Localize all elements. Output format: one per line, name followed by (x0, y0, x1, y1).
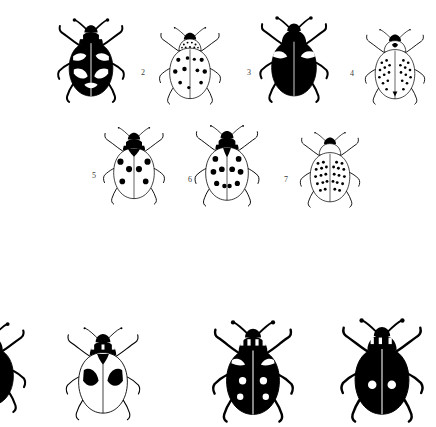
beetle-9 (65, 326, 141, 422)
illustration-plate: 234567 (0, 0, 436, 427)
figure-number-2: 2 (141, 69, 145, 77)
beetle-2 (157, 26, 223, 106)
beetle-8-cropped (0, 322, 26, 414)
figure-number-5: 5 (92, 172, 96, 180)
beetle-5 (101, 126, 167, 206)
beetle-3 (258, 16, 330, 104)
beetle-1 (55, 18, 127, 104)
figure-number-3: 3 (247, 69, 251, 77)
figure-number-4: 4 (350, 70, 354, 78)
beetle-11 (340, 318, 424, 424)
beetle-10 (212, 320, 294, 424)
figure-number-6: 6 (188, 176, 192, 184)
beetle-7 (298, 131, 362, 209)
figure-number-7: 7 (284, 176, 288, 184)
beetle-6 (192, 124, 262, 208)
beetle-4 (364, 28, 426, 106)
